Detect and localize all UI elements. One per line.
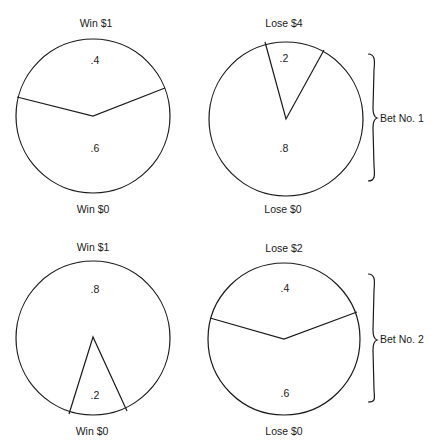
bet2-label: Bet No. 2	[380, 333, 424, 345]
bet1-brace	[368, 54, 377, 181]
bet2-lose-bottom-label: Lose $0	[265, 425, 302, 437]
bet2-lose-bottom-prob: .6	[281, 387, 290, 399]
bet1-win-top-label: Win $1	[80, 17, 113, 29]
bet2-win-bottom-label: Win $0	[76, 425, 109, 437]
bet1-win-divider	[17, 88, 165, 116]
bet2-win-bottom-prob: .2	[91, 389, 100, 401]
bet-wheels-diagram	[0, 0, 435, 440]
bet1-lose-top-label: Lose $4	[265, 17, 302, 29]
bet2-brace	[368, 274, 377, 402]
bet2-lose-divider	[210, 312, 357, 339]
bet1-label: Bet No. 1	[380, 112, 424, 124]
bet1-lose-top-prob: .2	[280, 52, 289, 64]
bet1-win-bottom-prob: .6	[91, 142, 100, 154]
bet1-lose-divider	[265, 42, 324, 119]
bet2-win-top-label: Win $1	[77, 241, 110, 253]
bet1-win-bottom-label: Win $0	[77, 203, 110, 215]
bet2-win-top-prob: .8	[91, 283, 100, 295]
bet1-win-top-prob: .4	[91, 54, 100, 66]
bet1-lose-bottom-label: Lose $0	[264, 203, 301, 215]
bet2-lose-top-label: Lose $2	[265, 242, 302, 254]
bet2-win-divider	[69, 337, 127, 414]
bet2-lose-top-prob: .4	[281, 282, 290, 294]
bet1-lose-bottom-prob: .8	[280, 142, 289, 154]
